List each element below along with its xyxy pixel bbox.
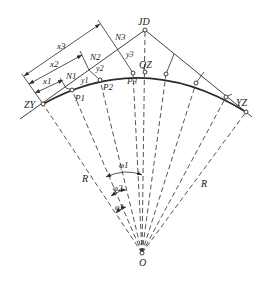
label-jd: JD xyxy=(138,16,150,27)
curve-layout-diagram: JD ZY YZ QZ O P1 P2 P3 x1 x2 x3 N1 N2 N3… xyxy=(0,0,269,286)
point-r2 xyxy=(194,81,198,85)
point-p3 xyxy=(131,71,135,75)
label-phi1: φ1 xyxy=(119,160,128,170)
point-yz xyxy=(244,110,248,114)
point-p2 xyxy=(98,78,102,82)
label-x3: x3 xyxy=(56,41,66,51)
point-r3 xyxy=(224,95,228,99)
label-r-right: R xyxy=(200,178,207,189)
label-r-left: R xyxy=(81,173,88,184)
tangent-line-left xyxy=(20,30,145,119)
label-zy: ZY xyxy=(24,99,37,110)
label-y1: y1 xyxy=(80,76,89,85)
label-x2: x2 xyxy=(49,59,59,69)
label-p1: P1 xyxy=(74,93,85,103)
label-n3: N3 xyxy=(114,32,126,42)
label-n1: N1 xyxy=(65,71,77,81)
point-qz xyxy=(143,70,147,74)
label-o: O xyxy=(139,257,146,268)
label-yz: YZ xyxy=(236,97,248,108)
label-qz: QZ xyxy=(139,59,152,70)
point-jd xyxy=(143,28,147,32)
label-x1: x1 xyxy=(42,76,52,86)
label-p2: P2 xyxy=(102,82,113,92)
label-phi3: φ3 xyxy=(115,203,123,212)
label-y3: y3 xyxy=(125,50,134,59)
angle-arcs xyxy=(106,172,142,213)
point-zy xyxy=(41,102,45,106)
point-r1 xyxy=(164,72,168,76)
label-y2: y2 xyxy=(95,64,104,73)
labels: JD ZY YZ QZ O P1 P2 P3 x1 x2 x3 N1 N2 N3… xyxy=(24,16,248,268)
label-p3: P3 xyxy=(126,76,137,86)
label-n2: N2 xyxy=(89,52,101,62)
tangent-lines xyxy=(20,30,252,119)
point-o xyxy=(140,251,144,255)
label-phi2: φ2 xyxy=(113,183,123,193)
point-p1 xyxy=(70,88,74,92)
